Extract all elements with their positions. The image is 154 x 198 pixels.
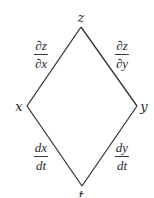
fraction-numerator: ∂z <box>115 39 128 52</box>
fraction-bar <box>34 54 48 55</box>
fraction-numerator: dy <box>115 141 129 154</box>
fraction-bar <box>115 54 129 55</box>
node-z: z <box>78 11 85 24</box>
edge-label-dz-dy: ∂z ∂y <box>115 39 129 70</box>
node-t: t <box>78 189 83 198</box>
node-y: y <box>140 100 147 113</box>
fraction-denominator: ∂y <box>115 57 129 70</box>
node-x: x <box>15 100 22 113</box>
edge-label-dx-dt: dx dt <box>34 141 48 172</box>
edge-label-dz-dx: ∂z ∂x <box>34 39 48 70</box>
chain-rule-tree-diagram: z x y t ∂z ∂x ∂z ∂y dx dt dy dt <box>0 0 154 197</box>
fraction-bar <box>115 156 129 157</box>
fraction-denominator: dt <box>116 159 128 172</box>
diagram-edges <box>0 0 154 197</box>
fraction-denominator: dt <box>35 159 47 172</box>
fraction-denominator: ∂x <box>34 57 48 70</box>
fraction-bar <box>34 156 48 157</box>
fraction-numerator: ∂z <box>34 39 47 52</box>
fraction-numerator: dx <box>34 141 48 154</box>
edge-label-dy-dt: dy dt <box>115 141 129 172</box>
